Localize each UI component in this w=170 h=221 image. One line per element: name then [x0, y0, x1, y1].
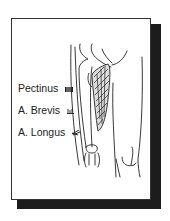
thigh-outline-right: [138, 57, 142, 177]
thigh-anatomy-drawing: [12, 19, 152, 201]
illustration-card: Pectinus A. Brevis A. Longus: [11, 18, 151, 200]
